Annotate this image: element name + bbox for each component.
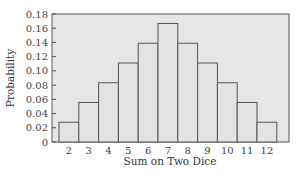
y-tick-label: 0.02 — [26, 122, 48, 133]
bar-2 — [59, 122, 79, 142]
y-tick-label: 0.16 — [26, 23, 48, 34]
dice-probability-chart: 00.020.040.060.080.100.120.140.160.18 23… — [0, 0, 298, 179]
x-tick-label: 2 — [66, 145, 72, 156]
y-axis-label: Probability — [4, 49, 16, 107]
bar-3 — [79, 102, 99, 142]
bar-7 — [158, 23, 178, 142]
bar-10 — [217, 83, 237, 142]
y-tick-label: 0.14 — [26, 37, 48, 48]
x-tick-label: 3 — [86, 145, 92, 156]
y-tick-label: 0.10 — [26, 65, 48, 76]
bar-11 — [237, 102, 257, 142]
x-tick-label: 4 — [105, 145, 111, 156]
bar-12 — [257, 122, 277, 142]
bar-4 — [99, 83, 119, 142]
y-tick-label: 0.06 — [26, 94, 48, 105]
x-tick-label: 12 — [261, 145, 274, 156]
y-axis-ticks: 00.020.040.060.080.100.120.140.160.18 — [26, 9, 56, 148]
x-tick-label: 11 — [241, 145, 254, 156]
x-tick-label: 10 — [221, 145, 234, 156]
bar-9 — [198, 63, 218, 142]
bar-6 — [138, 43, 158, 142]
bar-5 — [118, 63, 138, 142]
bar-8 — [178, 43, 198, 142]
y-tick-label: 0.18 — [26, 9, 48, 20]
x-axis-label: Sum on Two Dice — [124, 155, 217, 167]
y-tick-label: 0.08 — [26, 80, 48, 91]
y-tick-label: 0.04 — [26, 108, 48, 119]
y-tick-label: 0 — [42, 137, 48, 148]
y-tick-label: 0.12 — [26, 51, 48, 62]
